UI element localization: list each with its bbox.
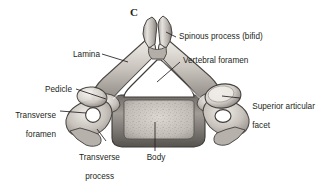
label-transverse-process-line2: process: [85, 172, 114, 181]
vertebra-body-group: [112, 95, 205, 147]
label-body: Body: [138, 153, 174, 163]
label-transverse-process-line1: Transverse: [79, 153, 120, 162]
right-transverse-foramen: [215, 110, 231, 123]
vertebral-body-trabeculae: [124, 100, 194, 139]
label-vertebral-foramen: Vertebral foramen: [183, 56, 248, 66]
left-transverse-foramen: [86, 108, 101, 123]
leader-lamina: [102, 54, 128, 62]
label-transverse-foramen: Transverse foramen: [2, 101, 56, 149]
label-lamina: Lamina: [58, 50, 100, 60]
label-transverse-foramen-line2: foramen: [26, 130, 56, 139]
spinous-process-base: [148, 47, 166, 59]
label-pedicle: Pedicle: [28, 85, 72, 95]
label-superior-articular-facet-line2: facet: [252, 121, 270, 130]
label-transverse-foramen-line1: Transverse: [15, 111, 56, 120]
label-spinous-process: Spinous process (bifid): [179, 32, 263, 42]
anatomy-figure-cervical-vertebra: C Spinous process (bifid) Vertebral fora…: [0, 0, 322, 183]
panel-letter-c: C: [130, 6, 138, 18]
label-superior-articular-facet-line1: Superior articular: [252, 102, 315, 111]
label-transverse-process: Transverse process: [66, 143, 124, 183]
label-superior-articular-facet: Superior articular facet: [243, 92, 321, 140]
